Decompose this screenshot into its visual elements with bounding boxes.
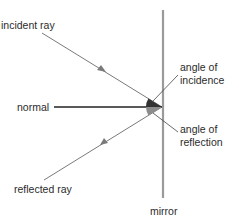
incidence-pointer-line bbox=[153, 75, 178, 101]
reflection-pointer-line bbox=[153, 113, 178, 132]
incident-ray-label: incident ray bbox=[1, 19, 55, 31]
angle-of-incidence-label-line1: angle of bbox=[180, 61, 217, 73]
angle-of-incidence-label-line2: incidence bbox=[180, 74, 224, 86]
incident-ray-arrow-icon bbox=[97, 65, 106, 72]
angle-of-reflection-label-line2: reflection bbox=[180, 136, 223, 148]
mirror-label: mirror bbox=[150, 205, 177, 217]
angle-of-reflection-label-line1: angle of bbox=[180, 123, 217, 135]
reflection-diagram: incident ray normal reflected ray mirror… bbox=[0, 0, 239, 224]
normal-label: normal bbox=[17, 101, 49, 113]
reflected-ray-label: reflected ray bbox=[14, 183, 72, 195]
